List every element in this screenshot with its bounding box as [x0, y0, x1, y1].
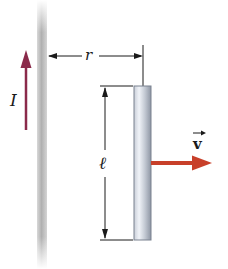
distance-dimension: [48, 45, 143, 86]
current-arrow-icon: [21, 50, 32, 130]
current-label: I: [9, 90, 17, 110]
length-label: ℓ: [99, 153, 106, 173]
wire: [35, 0, 49, 269]
velocity-arrow-icon: [151, 156, 212, 171]
velocity-label-text: v: [192, 135, 203, 153]
velocity-label: v: [192, 131, 206, 154]
conducting-bar: [134, 86, 151, 240]
distance-label: r: [85, 46, 93, 64]
wire-and-moving-bar-diagram: I r ℓ v: [0, 0, 228, 269]
